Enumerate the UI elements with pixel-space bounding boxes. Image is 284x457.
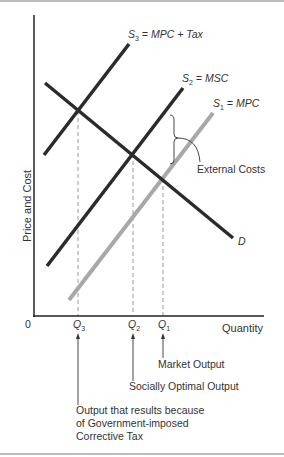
tax-output-line-1: Output that results because <box>76 404 204 417</box>
x-axis-label: Quantity <box>222 322 263 334</box>
socially-optimal-output-note: Socially Optimal Output <box>129 380 239 393</box>
tax-output-note: Output that results because of Governmen… <box>76 404 204 443</box>
external-costs-label: External Costs <box>197 163 265 175</box>
s3-label-rest: = MPC + Tax <box>139 28 203 40</box>
q1-arrowhead <box>161 333 165 339</box>
market-output-note: Market Output <box>158 358 225 371</box>
q3-sub: 3 <box>81 325 85 332</box>
s1-label-main: S <box>213 97 220 109</box>
s3-label-main: S <box>128 28 135 40</box>
q2-arrowhead <box>131 333 135 339</box>
q3-tick-label: Q3 <box>73 318 85 332</box>
q1-tick-label: Q1 <box>158 318 170 332</box>
external-costs-brace <box>170 115 178 164</box>
tax-output-line-3: Corrective Tax <box>76 430 204 443</box>
s3-label: S3 = MPC + Tax <box>128 28 203 42</box>
demand-curve <box>45 83 233 238</box>
demand-label: D <box>238 235 246 247</box>
q3-main: Q <box>73 318 81 330</box>
q2-main: Q <box>128 318 136 330</box>
s2-label: S2 = MSC <box>182 72 228 86</box>
s1-label-rest: = MPC <box>224 97 259 109</box>
origin-label: 0 <box>25 318 31 330</box>
y-axis-label: Price and Cost <box>21 161 33 251</box>
q3-arrowhead <box>76 333 80 339</box>
s2-label-main: S <box>182 72 189 84</box>
s3-mpc-tax-curve <box>44 44 129 155</box>
bottom-border <box>0 453 284 455</box>
q1-main: Q <box>158 318 166 330</box>
q2-tick-label: Q2 <box>128 318 140 332</box>
s2-label-rest: = MSC <box>193 72 228 84</box>
q2-sub: 2 <box>136 325 140 332</box>
q1-sub: 1 <box>166 325 170 332</box>
tax-output-line-2: of Government-imposed <box>76 417 204 430</box>
s1-label: S1 = MPC <box>213 97 259 111</box>
